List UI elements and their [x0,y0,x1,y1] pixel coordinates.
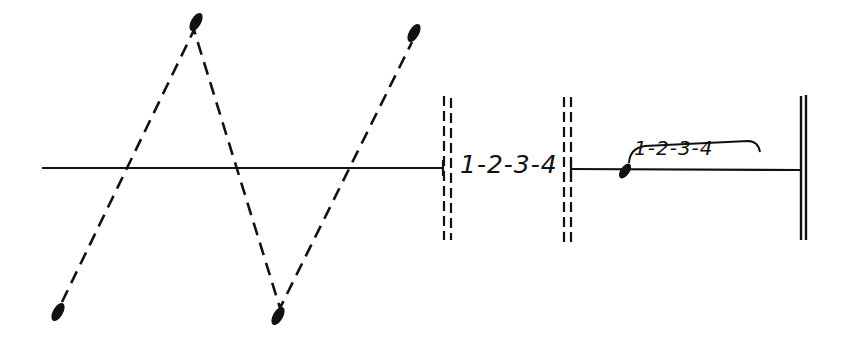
staff-line-right [571,169,801,170]
section-count-label: 1-2-3-4 [460,150,558,179]
slurred-count-label: 1-2-3-4 [634,136,714,160]
note-head-4 [405,22,424,44]
dashed-barline-1 [444,96,451,240]
note-head-3 [269,305,288,327]
note-head-1 [49,301,68,323]
notation-diagram [0,0,852,343]
final-barline [801,95,806,240]
final-note-head [616,161,633,180]
note-head-2 [187,11,206,33]
